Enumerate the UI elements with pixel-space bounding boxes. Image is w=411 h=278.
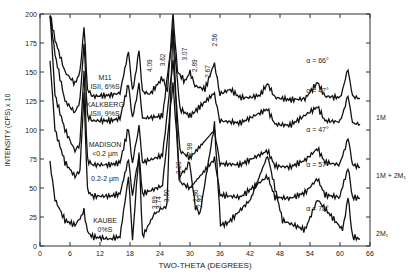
peak-annotation: 2.56 [211, 33, 218, 46]
alpha-label: α = 78° [306, 205, 329, 212]
polytype-label: 2M₁ [376, 230, 389, 237]
sample-label: KAUBE [93, 217, 117, 224]
peak-annotation: 2.80 [196, 195, 203, 208]
polytype-label: 1M [376, 114, 386, 121]
peak-annotation: 3.74 [155, 196, 162, 209]
peak-annotation: 2.98 [186, 142, 193, 155]
y-tick-label: 175 [25, 40, 37, 47]
peak-annotation: 2.67 [204, 65, 211, 78]
y-tick-label: 0 [33, 243, 37, 250]
sample-label: MADISON [89, 141, 122, 148]
x-tick-label: 54 [306, 250, 314, 257]
peak-annotation: 2.89 [191, 59, 198, 72]
peak-annotation: 4.09 [146, 59, 153, 72]
x-tick-label: 60 [336, 250, 344, 257]
sample-label: 0.2-2 µm [91, 175, 119, 183]
x-tick-label: 24 [156, 250, 164, 257]
alpha-label: α = 66° [306, 57, 329, 64]
peak-annotation: 3.62 [159, 53, 166, 66]
y-tick-label: 25 [29, 214, 37, 221]
alpha-label: α = 47° [306, 126, 329, 133]
sample-label: 0%S [98, 226, 113, 233]
sample-label: KALKBERG [86, 101, 124, 108]
labels-group: M11ISII, 6%SKALKBERGISII, 9%SMADISON<0.2… [86, 33, 406, 237]
peak-annotation: 3.07 [181, 47, 188, 60]
x-axis-label: TWO-THETA (DEGREES) [158, 261, 252, 270]
y-tick-label: 150 [25, 69, 37, 76]
polytype-label: 1M + 2M₁ [376, 172, 406, 179]
x-tick-label: 66 [366, 250, 374, 257]
x-tick-label: 42 [246, 250, 254, 257]
peak-annotation: 3.20 [175, 161, 182, 174]
x-tick-label: 30 [186, 250, 194, 257]
sample-label: ISII, 6%S [90, 83, 120, 90]
peak-annotation: 3.50 [163, 189, 170, 202]
x-tick-label: 6 [68, 250, 72, 257]
y-tick-label: 200 [25, 11, 37, 18]
y-axis-label: INTENSITY (CPS) x 10 [4, 94, 12, 167]
sample-label: M11 [98, 74, 111, 81]
x-tick-label: 0 [38, 250, 42, 257]
sample-label: ISII, 9%S [90, 110, 120, 117]
x-tick-label: 18 [126, 250, 134, 257]
x-tick-label: 48 [276, 250, 284, 257]
y-tick-label: 125 [25, 98, 37, 105]
x-tick-label: 12 [96, 250, 104, 257]
y-tick-label: 50 [29, 185, 37, 192]
y-tick-label: 100 [25, 127, 37, 134]
alpha-label: α = 57° [306, 161, 329, 168]
xrd-chart: 0612182430364248546066025507510012515017… [0, 0, 411, 278]
sample-label: <0.2 µm [92, 150, 118, 158]
y-tick-label: 75 [29, 156, 37, 163]
x-tick-label: 36 [216, 250, 224, 257]
alpha-label: α = 47° [306, 87, 329, 94]
